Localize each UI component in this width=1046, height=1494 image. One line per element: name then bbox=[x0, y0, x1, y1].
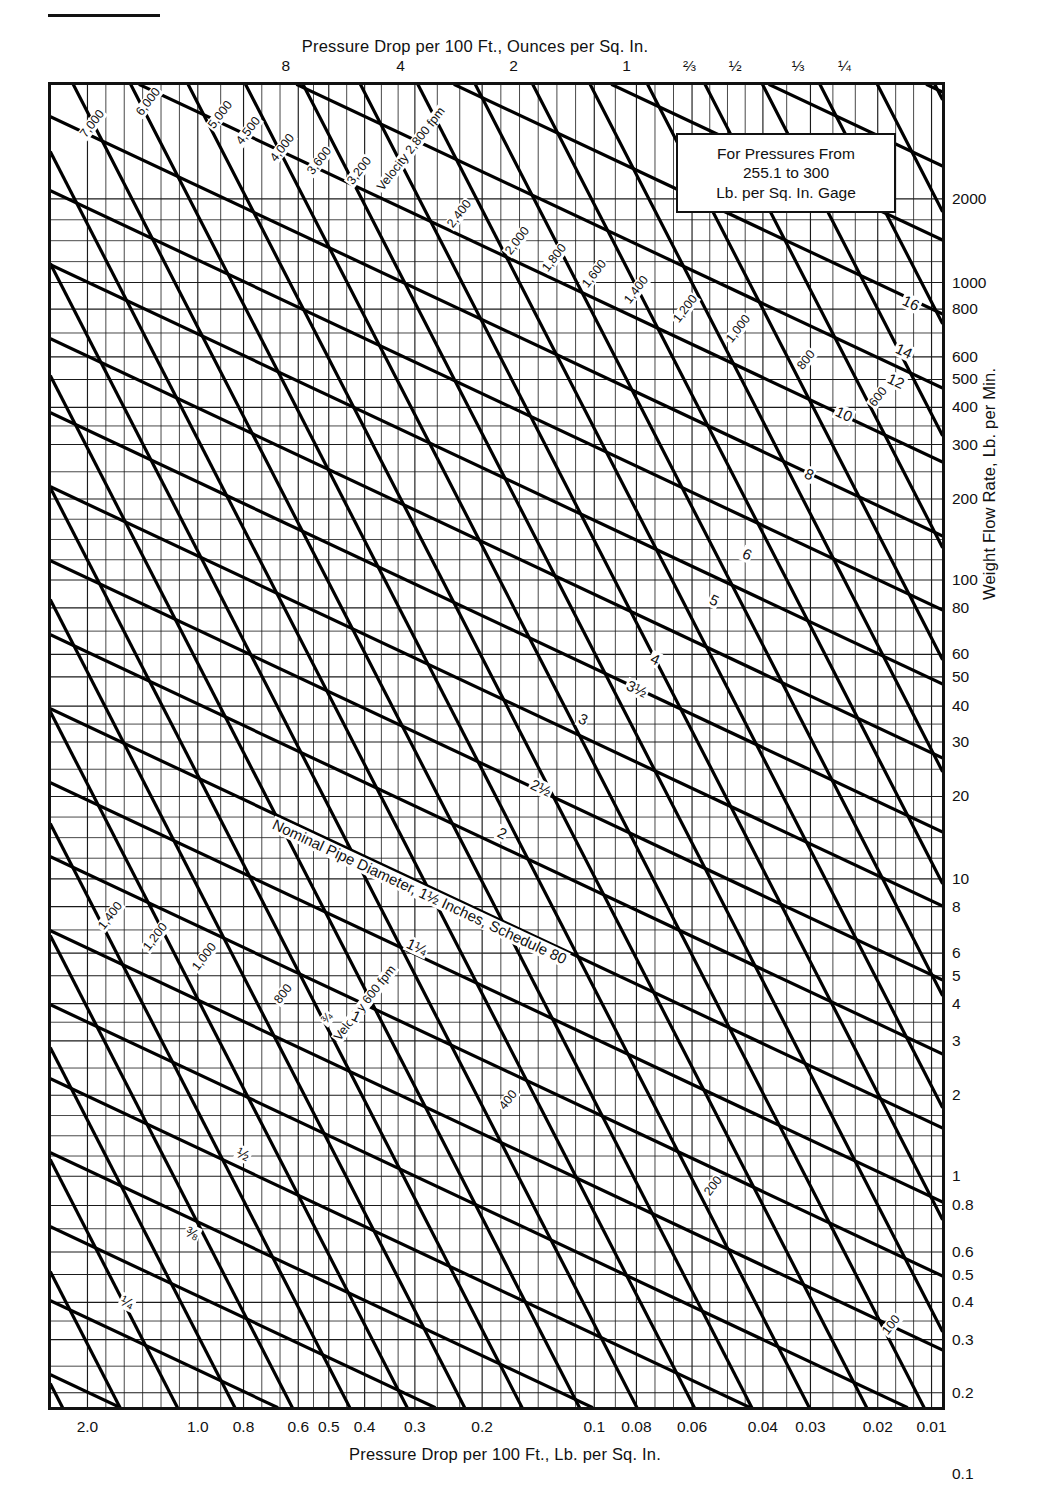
velocity-line bbox=[131, 85, 809, 1407]
velocity-line bbox=[51, 1385, 62, 1407]
pipe-diameter-line bbox=[51, 1227, 434, 1407]
right-axis-tick-label: 0.1 bbox=[952, 1465, 974, 1483]
right-axis-tick-label: 600 bbox=[952, 348, 978, 366]
pipe-diameter-line bbox=[51, 1153, 591, 1407]
bottom-axis-tick-label: 0.2 bbox=[471, 1418, 493, 1436]
top-axis-tick-label: 1 bbox=[622, 57, 631, 75]
right-axis-tick-label: 0.5 bbox=[952, 1266, 974, 1284]
right-axis-title: Weight Flow Rate, Lb. per Min. bbox=[980, 280, 999, 600]
velocity-line bbox=[303, 85, 942, 1330]
top-axis-tick-label: 2 bbox=[509, 57, 518, 75]
right-axis-tick-label: 100 bbox=[952, 571, 978, 589]
top-axis-tick-label: ¼ bbox=[838, 57, 851, 75]
velocity-line bbox=[476, 85, 942, 994]
pressure-range-callout: For Pressures From 255.1 to 300 Lb. per … bbox=[676, 133, 896, 213]
right-axis-tick-label: 80 bbox=[952, 599, 969, 617]
right-axis-tick-label: 0.3 bbox=[952, 1331, 974, 1349]
pipe-diameter-line bbox=[298, 85, 942, 388]
callout-line-2: 255.1 to 300 bbox=[743, 163, 829, 183]
right-axis-tick-label: 300 bbox=[952, 436, 978, 454]
velocity-line bbox=[51, 937, 292, 1407]
right-axis-tick-label: 40 bbox=[952, 697, 969, 715]
bottom-axis-tick-label: 2.0 bbox=[77, 1418, 99, 1436]
velocity-line bbox=[51, 1273, 120, 1407]
nomograph-plot-area: 7,0006,0005,0004,5004,0003,6003,200Veloc… bbox=[48, 82, 945, 1410]
right-axis-tick-label: 400 bbox=[952, 398, 978, 416]
velocity-line bbox=[51, 377, 579, 1407]
top-axis-tick-label: ½ bbox=[729, 57, 742, 75]
bottom-axis-tick-label: 0.1 bbox=[583, 1418, 605, 1436]
bottom-axis-tick-label: 0.06 bbox=[677, 1418, 707, 1436]
velocity-line bbox=[418, 85, 942, 1106]
top-axis-title: Pressure Drop per 100 Ft., Ounces per Sq… bbox=[0, 37, 950, 56]
velocity-line bbox=[51, 1161, 177, 1407]
bottom-axis-tick-label: 0.03 bbox=[795, 1418, 825, 1436]
velocity-line bbox=[51, 825, 349, 1407]
right-axis-tick-label: 8 bbox=[952, 898, 961, 916]
bottom-axis-tick-label: 0.4 bbox=[354, 1418, 376, 1436]
right-axis-tick-label: 0.2 bbox=[952, 1384, 974, 1402]
bottom-axis-tick-label: 0.5 bbox=[318, 1418, 340, 1436]
callout-line-1: For Pressures From bbox=[717, 144, 855, 164]
right-axis-tick-label: 3 bbox=[952, 1032, 961, 1050]
bottom-axis-tick-label: 0.08 bbox=[621, 1418, 651, 1436]
right-axis-tick-label: 2000 bbox=[952, 190, 986, 208]
bottom-axis-tick-label: 0.04 bbox=[748, 1418, 778, 1436]
top-axis-tick-label: ⅓ bbox=[791, 57, 804, 75]
right-axis-tick-label: 2 bbox=[952, 1086, 961, 1104]
velocity-line bbox=[51, 265, 637, 1407]
top-axis-tick-label: 8 bbox=[281, 57, 290, 75]
velocity-line bbox=[51, 489, 522, 1407]
bottom-axis-tick-label: 1.0 bbox=[187, 1418, 209, 1436]
right-axis-tick-label: 50 bbox=[952, 668, 969, 686]
bottom-axis-tick-label: 0.01 bbox=[916, 1418, 946, 1436]
right-axis-tick-label: 0.8 bbox=[952, 1196, 974, 1214]
right-axis-tick-label: 30 bbox=[952, 733, 969, 751]
decorative-rule bbox=[48, 14, 160, 17]
bottom-axis-tick-label: 0.8 bbox=[233, 1418, 255, 1436]
right-axis-tick-label: 800 bbox=[952, 300, 978, 318]
bottom-axis-title: Pressure Drop per 100 Ft., Lb. per Sq. I… bbox=[0, 1445, 1010, 1464]
right-axis-tick-label: 500 bbox=[952, 370, 978, 388]
right-axis-tick-label: 10 bbox=[952, 870, 969, 888]
right-axis-tick-label: 4 bbox=[952, 995, 961, 1013]
right-axis-tick-label: 6 bbox=[952, 944, 961, 962]
right-axis-tick-label: 1 bbox=[952, 1167, 961, 1185]
chart-data-lines bbox=[51, 85, 942, 1407]
right-axis-tick-label: 200 bbox=[952, 490, 978, 508]
right-axis-tick-label: 60 bbox=[952, 645, 969, 663]
right-axis-tick-label: 0.4 bbox=[952, 1293, 974, 1311]
pipe-diameter-line bbox=[51, 1079, 749, 1407]
velocity-line bbox=[51, 601, 464, 1407]
right-axis-tick-label: 20 bbox=[952, 787, 969, 805]
top-axis-tick-label: ⅔ bbox=[683, 57, 696, 75]
callout-line-3: Lb. per Sq. In. Gage bbox=[716, 183, 856, 203]
bottom-axis-tick-label: 0.02 bbox=[863, 1418, 893, 1436]
top-axis-tick-label: 4 bbox=[396, 57, 405, 75]
right-axis-tick-label: 1000 bbox=[952, 274, 986, 292]
right-axis-tick-label: 5 bbox=[952, 967, 961, 985]
bottom-axis-tick-label: 0.3 bbox=[404, 1418, 426, 1436]
bottom-axis-tick-label: 0.6 bbox=[287, 1418, 309, 1436]
right-axis-tick-label: 0.6 bbox=[952, 1243, 974, 1261]
velocity-line bbox=[51, 713, 407, 1407]
